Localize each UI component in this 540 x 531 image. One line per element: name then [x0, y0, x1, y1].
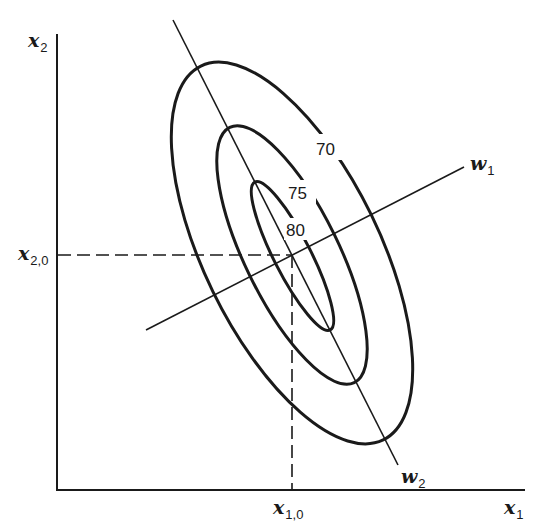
contour-label-80: 80 — [286, 221, 305, 240]
contour-label-75: 75 — [288, 184, 307, 203]
coordinate-axes — [56, 34, 525, 491]
x1-0-label: x1,0 — [272, 496, 303, 522]
y-axis-label: x2 — [27, 29, 48, 55]
contour-diagram: 70 75 80 x2 x1 x2,0 x1,0 w1 w2 — [0, 0, 540, 531]
contour-label-70: 70 — [316, 140, 335, 159]
w2-label: w2 — [401, 465, 426, 491]
w1-label: w1 — [470, 152, 495, 178]
x2-0-label: x2,0 — [17, 242, 48, 268]
x-axis-label: x1 — [503, 496, 524, 522]
